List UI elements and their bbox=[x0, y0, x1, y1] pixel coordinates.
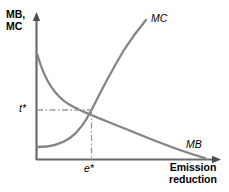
y-axis-title: MB, MC bbox=[6, 9, 25, 33]
x-tick-label-e-star: e* bbox=[84, 163, 94, 175]
y-axis bbox=[33, 12, 40, 160]
y-tick-label-t-star: t* bbox=[19, 103, 26, 115]
x-axis-title: Emission reduction bbox=[160, 162, 226, 186]
mc-curve-label: MC bbox=[151, 13, 167, 25]
economics-diagram: MB, MC Emission reduction MC MB t* e* bbox=[0, 0, 229, 192]
mb-curve-label: MB bbox=[186, 139, 202, 151]
